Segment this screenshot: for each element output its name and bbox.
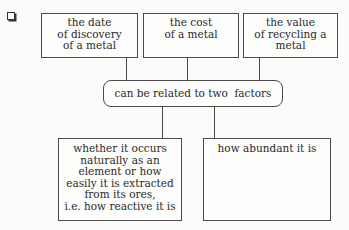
center-node-text: can be related to two factors [115, 87, 272, 99]
box-cost-of-metal: the cost of a metal [143, 13, 239, 58]
box-text: the cost of a metal [144, 17, 238, 40]
box-reactivity: whether it occurs naturally as an elemen… [58, 138, 182, 221]
connector-line [126, 58, 127, 80]
connector-line [214, 107, 215, 138]
box-abundance: how abundant it is [203, 138, 331, 221]
box-value-of-recycling: the value of recycling a metal [243, 13, 338, 58]
center-node: can be related to two factors [103, 80, 283, 107]
box-text: whether it occurs naturally as an elemen… [59, 143, 181, 212]
connector-line [259, 58, 260, 80]
box-text: how abundant it is [204, 143, 330, 155]
connector-line [162, 107, 163, 138]
connector-line [187, 58, 188, 80]
box-date-of-discovery: the date of discovery of a metal [41, 13, 138, 58]
box-text: the date of discovery of a metal [42, 17, 137, 52]
box-text: the value of recycling a metal [244, 17, 337, 52]
checkbox-bullet-icon [7, 12, 15, 20]
